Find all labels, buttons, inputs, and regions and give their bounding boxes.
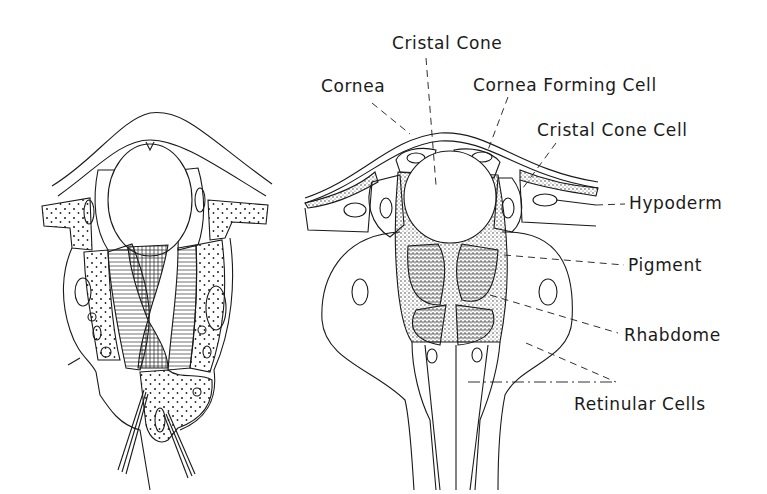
label-cornea-forming-cell: Cornea Forming Cell: [473, 77, 657, 94]
label-cristal-cone-cell: Cristal Cone Cell: [537, 122, 688, 139]
label-retinular-cells: Retinular Cells: [574, 396, 706, 413]
label-cornea: Cornea: [321, 78, 385, 95]
label-hypoderm: Hypoderm: [629, 195, 722, 212]
label-rhabdome: Rhabdome: [624, 327, 721, 344]
left-ommatidium: [42, 112, 272, 490]
ommatidium-diagram: Cristal Cone Cornea Cornea Forming Cell …: [0, 0, 767, 494]
label-cristal-cone: Cristal Cone: [392, 35, 502, 52]
label-pigment: Pigment: [628, 257, 702, 274]
